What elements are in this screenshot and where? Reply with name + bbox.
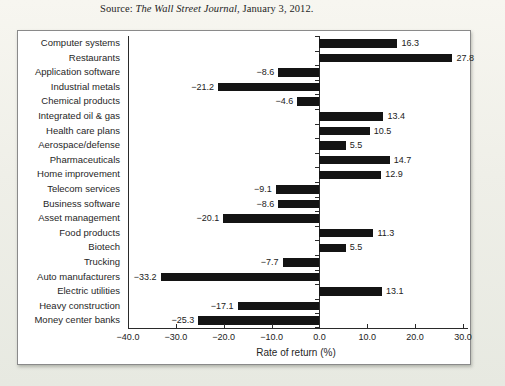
- category-label: Heavy construction: [19, 299, 120, 314]
- bar: [319, 287, 382, 296]
- zero-line-category-tick: [315, 226, 319, 227]
- bar: [198, 316, 319, 325]
- category-label: Industrial metals: [19, 80, 120, 95]
- category-label: Aerospace/defense: [19, 138, 120, 153]
- zero-line-category-tick: [315, 270, 319, 271]
- bar: [319, 229, 373, 238]
- category-label: Trucking: [19, 255, 120, 270]
- bar-value-label: 13.4: [388, 109, 406, 124]
- bar-value-label: −4.6: [276, 94, 294, 109]
- bar-value-label: −20.1: [196, 211, 219, 226]
- bar-value-label: −21.2: [191, 80, 214, 95]
- bar: [319, 127, 369, 136]
- left-axis-line: [128, 36, 129, 329]
- bar: [297, 97, 319, 106]
- x-axis-tick-label: 30.0: [443, 332, 483, 342]
- zero-line-category-tick: [315, 153, 319, 154]
- x-axis-tick-label: −20.0: [204, 332, 244, 342]
- category-label: Health care plans: [19, 124, 120, 139]
- bar-value-label: 13.1: [386, 284, 404, 299]
- category-label: Home improvement: [19, 167, 120, 182]
- bar-value-label: −7.7: [261, 255, 279, 270]
- category-label: Integrated oil & gas: [19, 109, 120, 124]
- bar-value-label: −8.6: [257, 197, 275, 212]
- x-axis-line: [128, 328, 468, 329]
- zero-line-category-tick: [315, 65, 319, 66]
- zero-line-category-tick: [315, 51, 319, 52]
- category-label: Asset management: [19, 211, 120, 226]
- zero-line-category-tick: [315, 197, 319, 198]
- x-axis-tick: [463, 324, 464, 328]
- x-axis-title: Rate of return (%): [128, 347, 464, 358]
- bar-value-label: 10.5: [374, 124, 392, 139]
- bar: [319, 54, 452, 63]
- category-label: Business software: [19, 197, 120, 212]
- bar-value-label: 5.5: [350, 138, 363, 153]
- x-axis-tick: [319, 324, 320, 328]
- x-axis-tick: [176, 324, 177, 328]
- bar: [283, 258, 320, 267]
- category-label: Pharmaceuticals: [19, 153, 120, 168]
- category-label: Restaurants: [19, 51, 120, 66]
- chart-box: Computer systemsRestaurantsApplication s…: [17, 30, 471, 365]
- bar-value-label: 14.7: [394, 153, 412, 168]
- bar: [319, 171, 381, 180]
- zero-line-category-tick: [315, 124, 319, 125]
- x-axis-tick: [224, 324, 225, 328]
- category-label: Telecom services: [19, 182, 120, 197]
- x-axis-tick-label: 20.0: [395, 332, 435, 342]
- category-label: Application software: [19, 65, 120, 80]
- bar: [319, 244, 345, 253]
- x-axis-tick-label: −30.0: [156, 332, 196, 342]
- zero-axis-line: [319, 36, 320, 329]
- source-suffix: , January 3, 2012.: [237, 3, 313, 14]
- bar: [276, 185, 320, 194]
- x-axis-tick-label: −40.0: [108, 332, 148, 342]
- x-axis-tick: [128, 324, 129, 328]
- source-publication: The Wall Street Journal: [136, 3, 238, 14]
- zero-line-category-tick: [315, 284, 319, 285]
- bar: [223, 214, 319, 223]
- zero-line-category-tick: [315, 80, 319, 81]
- bar-value-label: −33.2: [134, 270, 157, 285]
- x-axis-tick: [367, 324, 368, 328]
- source-line: Source: The Wall Street Journal, January…: [100, 3, 314, 14]
- category-label: Electric utilities: [19, 284, 120, 299]
- bar: [319, 156, 389, 165]
- bar-value-label: 11.3: [378, 226, 395, 241]
- x-axis-tick-label: 0.0: [299, 332, 339, 342]
- bar-value-label: −17.1: [211, 299, 234, 314]
- zero-line-category-tick: [315, 94, 319, 95]
- x-axis-tick-label: 10.0: [347, 332, 387, 342]
- bar: [218, 83, 320, 92]
- bar: [278, 68, 319, 77]
- bar: [161, 273, 320, 282]
- bar-value-label: 5.5: [350, 240, 363, 255]
- category-label: Computer systems: [19, 36, 120, 51]
- zero-line-category-tick: [315, 167, 319, 168]
- category-axis-labels: Computer systemsRestaurantsApplication s…: [19, 36, 124, 328]
- category-label: Auto manufacturers: [19, 270, 120, 285]
- bar-value-label: 16.3: [401, 36, 419, 51]
- bar: [319, 112, 383, 121]
- category-label: Biotech: [19, 240, 120, 255]
- zero-line-category-tick: [315, 109, 319, 110]
- bar: [238, 302, 320, 311]
- bar-value-label: 27.8: [457, 51, 475, 66]
- x-axis-tick: [415, 324, 416, 328]
- bar-value-label: −8.6: [257, 65, 275, 80]
- plot-area: Rate of return (%) 16.327.8−8.6−21.2−4.6…: [128, 36, 464, 328]
- zero-line-category-tick: [315, 211, 319, 212]
- source-prefix: Source:: [100, 3, 136, 14]
- x-axis-tick-label: −10.0: [252, 332, 292, 342]
- zero-line-category-tick: [315, 313, 319, 314]
- bar: [319, 141, 345, 150]
- bar-value-label: −9.1: [254, 182, 272, 197]
- zero-line-category-tick: [315, 299, 319, 300]
- bar: [319, 39, 397, 48]
- page: Source: The Wall Street Journal, January…: [0, 0, 505, 386]
- category-label: Food products: [19, 226, 120, 241]
- zero-line-category-tick: [315, 240, 319, 241]
- zero-line-category-tick: [315, 36, 319, 37]
- category-label: Chemical products: [19, 94, 120, 109]
